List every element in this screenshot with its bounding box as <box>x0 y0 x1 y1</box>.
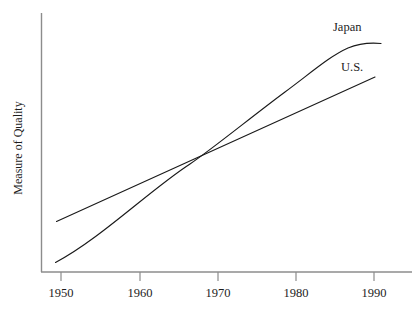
series-line-us <box>57 77 376 222</box>
y-axis-title: Measure of Quality <box>11 101 25 194</box>
line-chart: 1950 1960 1970 1980 1990 Japan U.S. Meas… <box>0 0 415 314</box>
series-line-japan <box>56 43 382 262</box>
x-tick-label-1960: 1960 <box>128 286 153 300</box>
x-tick-label-1970: 1970 <box>206 286 231 300</box>
x-tick-label-1950: 1950 <box>49 286 74 300</box>
series-label-us: U.S. <box>341 60 363 74</box>
chart-page: 1950 1960 1970 1980 1990 Japan U.S. Meas… <box>0 0 415 314</box>
x-tick-label-1980: 1980 <box>284 286 309 300</box>
x-tick-label-1990: 1990 <box>362 286 387 300</box>
series-label-japan: Japan <box>333 20 362 34</box>
